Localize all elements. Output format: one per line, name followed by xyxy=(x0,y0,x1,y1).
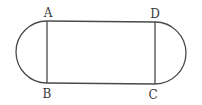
segment-ad xyxy=(47,21,155,22)
label-a: A xyxy=(43,6,53,20)
label-d: D xyxy=(150,7,160,21)
left-semicircle xyxy=(16,21,47,83)
stadium-diagram: A B D C xyxy=(0,0,202,105)
right-semicircle xyxy=(155,22,186,84)
label-c: C xyxy=(148,88,157,102)
label-b: B xyxy=(43,87,52,101)
segment-bc xyxy=(47,83,155,84)
